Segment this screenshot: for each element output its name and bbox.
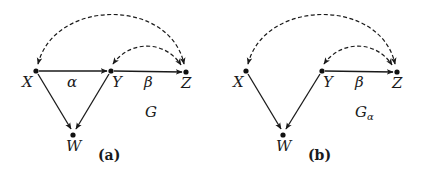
edge-y-to-w — [76, 74, 109, 129]
node-label-y: Y — [323, 73, 335, 91]
edge-y-to-z — [114, 71, 182, 72]
causal-diagram-figure: X Y Z W α β G (a) X Y Z W β Gα (b) — [0, 0, 426, 175]
edge-label-beta: β — [143, 73, 153, 91]
node-x — [243, 68, 248, 73]
graph-label-g-alpha: Gα — [355, 103, 374, 122]
node-label-w: W — [276, 137, 293, 155]
caption-a: (a) — [98, 147, 120, 163]
graph-label-g: G — [355, 103, 367, 121]
node-label-x: X — [21, 73, 34, 91]
edge-x-to-w — [248, 74, 281, 129]
node-label-x: X — [232, 73, 245, 91]
node-x — [33, 68, 38, 73]
edge-label-beta: β — [354, 73, 364, 91]
bidirected-edge-x-z — [38, 15, 184, 65]
bidirected-edge-y-z — [324, 46, 392, 65]
edge-y-to-w — [286, 74, 320, 129]
bidirected-edge-y-z — [113, 46, 181, 65]
caption-b: (b) — [308, 147, 331, 163]
graph-label-subscript: α — [367, 111, 374, 122]
bidirected-edge-x-z — [248, 15, 395, 65]
node-label-z: Z — [391, 74, 403, 92]
edge-y-to-z — [325, 71, 393, 72]
panel-a: X Y Z W α β G (a) — [21, 15, 192, 164]
panel-b: X Y Z W β Gα (b) — [232, 15, 403, 164]
node-label-w: W — [66, 137, 83, 155]
node-label-z: Z — [180, 74, 192, 92]
edge-label-alpha: α — [67, 73, 77, 91]
graph-label-g: G — [145, 103, 157, 121]
node-label-y: Y — [112, 73, 124, 91]
